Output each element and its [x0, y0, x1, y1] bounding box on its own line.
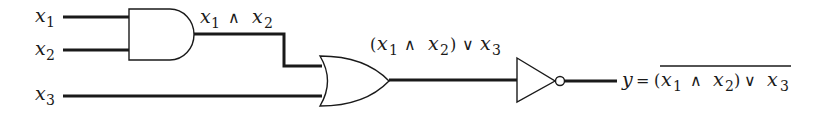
or-output-label: ( x 1 ∧ x 2 ) ∨ x 3: [370, 32, 501, 58]
wire-and-output: [194, 34, 322, 66]
svg-text:3: 3: [492, 42, 501, 58]
input-label-x2: x 2: [35, 37, 55, 63]
or-gate-icon: [320, 56, 389, 106]
svg-text:x: x: [480, 32, 491, 54]
svg-text:x: x: [661, 68, 672, 90]
svg-text:2: 2: [46, 47, 55, 63]
svg-text:x: x: [713, 68, 724, 90]
svg-text:): ): [450, 35, 456, 54]
svg-text:x: x: [200, 5, 211, 27]
svg-text:x: x: [252, 5, 263, 27]
svg-text:x: x: [35, 37, 46, 59]
svg-text:(: (: [654, 71, 660, 90]
svg-text:y: y: [621, 68, 633, 90]
svg-text:): ): [734, 71, 740, 90]
svg-text:∨: ∨: [744, 71, 756, 90]
svg-text:(: (: [370, 35, 376, 54]
and-gate-icon: [129, 9, 194, 60]
input-label-x3: x 3: [35, 82, 55, 108]
svg-text:2: 2: [725, 78, 734, 94]
svg-text:∧: ∧: [690, 71, 702, 90]
svg-text:2: 2: [264, 15, 273, 31]
svg-text:∨: ∨: [462, 35, 474, 54]
svg-text:2: 2: [440, 42, 449, 58]
final-output-label: y = ( x 1 ∧ x 2 ) ∨ x 3: [621, 66, 791, 94]
and-output-label: x 1 ∧ x 2: [200, 5, 273, 31]
svg-text:1: 1: [389, 42, 398, 58]
svg-text:∧: ∧: [404, 35, 416, 54]
svg-text:1: 1: [211, 15, 220, 31]
svg-text:3: 3: [780, 78, 789, 94]
logic-circuit-diagram: x 1 x 2 x 3 x 1 ∧ x 2 ( x 1 ∧ x 2 ) ∨ x …: [0, 0, 819, 115]
svg-text:x: x: [35, 82, 46, 104]
not-bubble-icon: [556, 77, 565, 86]
svg-text:3: 3: [46, 92, 55, 108]
input-label-x1: x 1: [35, 4, 55, 30]
svg-text:∧: ∧: [228, 8, 240, 27]
svg-text:1: 1: [46, 14, 55, 30]
svg-text:x: x: [767, 68, 778, 90]
not-gate-icon: [517, 58, 555, 102]
svg-text:x: x: [377, 32, 388, 54]
svg-text:x: x: [428, 32, 439, 54]
svg-text:1: 1: [673, 78, 682, 94]
svg-text:x: x: [35, 4, 46, 26]
svg-text:=: =: [636, 71, 649, 90]
